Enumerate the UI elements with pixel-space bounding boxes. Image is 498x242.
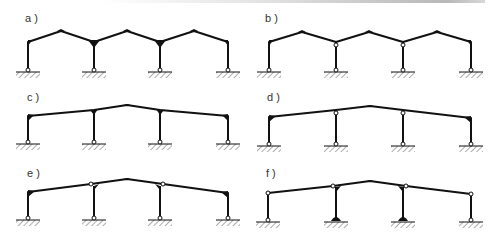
panel-e: e ) bbox=[16, 167, 240, 226]
panel-label-c: c ) bbox=[27, 91, 39, 103]
panel-b: b ) bbox=[257, 12, 483, 78]
panel-a: a ) bbox=[16, 12, 240, 78]
panel-label-d: d ) bbox=[267, 91, 280, 103]
panel-d: d ) bbox=[257, 91, 483, 152]
hinge-icon bbox=[334, 43, 338, 47]
panel-label-e: e ) bbox=[27, 167, 40, 179]
panel-f: f ) bbox=[256, 167, 483, 228]
panel-c: c ) bbox=[16, 91, 240, 150]
hinge-icon bbox=[401, 43, 405, 47]
panel-label-a: a ) bbox=[25, 12, 38, 24]
supports-b bbox=[257, 43, 483, 78]
panel-label-b: b ) bbox=[265, 12, 278, 24]
panel-label-f: f ) bbox=[266, 167, 276, 179]
frame-diagrams: a ) b ) bbox=[0, 0, 498, 242]
supports-a bbox=[16, 68, 240, 78]
